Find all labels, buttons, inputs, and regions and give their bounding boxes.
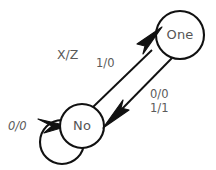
transition-label-one-to-no-line1: 0/0	[150, 88, 169, 102]
transition-label-no-to-one: 1/0	[96, 56, 115, 70]
transition-label-no-self: 0/0	[8, 119, 27, 133]
state-label-no: No	[64, 118, 100, 133]
diagram-svg	[0, 0, 216, 170]
state-diagram-canvas: No One X/Z 0/0 1/0 0/0 1/1	[0, 0, 216, 170]
transition-label-one-to-no: 0/0 1/1	[150, 88, 169, 115]
transition-label-one-to-no-line2: 1/1	[150, 102, 169, 116]
arrowhead-to-no-icon	[103, 100, 129, 128]
legend-input-output-label: X/Z	[57, 47, 78, 62]
state-label-one: One	[160, 27, 200, 42]
